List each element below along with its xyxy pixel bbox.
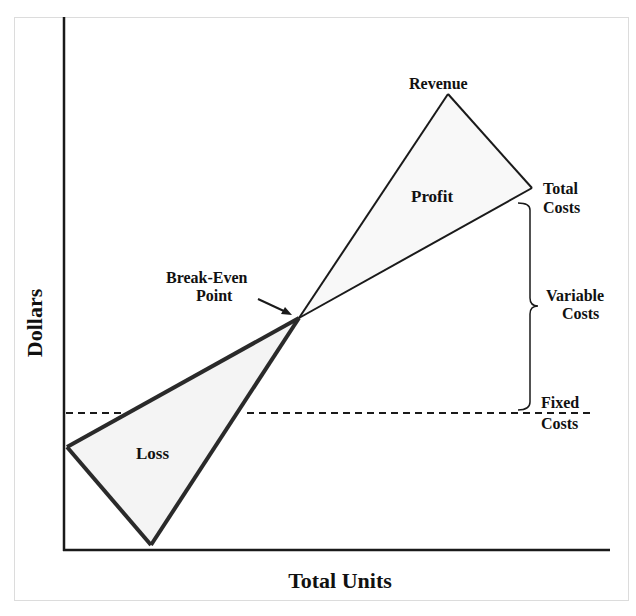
- variable-costs-brace: [518, 203, 538, 410]
- fixed-costs-label-line2: Costs: [541, 416, 578, 432]
- total-costs-label-line1: Total: [543, 181, 578, 197]
- variable-costs-label-line1: Variable: [546, 288, 604, 304]
- revenue-label: Revenue: [409, 76, 468, 92]
- break-even-label-line2: Point: [196, 288, 232, 304]
- x-axis-label: Total Units: [240, 568, 440, 594]
- profit-label: Profit: [411, 188, 453, 205]
- break-even-chart: [0, 0, 636, 616]
- loss-region: [67, 318, 299, 545]
- total-costs-label-line2: Costs: [543, 200, 580, 216]
- profit-region: [299, 94, 532, 318]
- break-even-arrow: [258, 299, 286, 312]
- y-axis-label: Dollars: [22, 263, 48, 383]
- loss-label: Loss: [136, 445, 169, 462]
- variable-costs-label-line2: Costs: [562, 306, 599, 322]
- break-even-label-line1: Break-Even: [166, 270, 247, 286]
- fixed-costs-label-line1: Fixed: [541, 395, 579, 411]
